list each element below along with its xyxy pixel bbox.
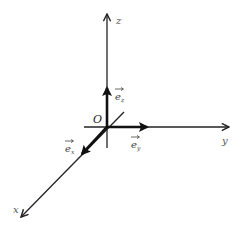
ez-subscript: z	[120, 96, 125, 103]
ex-subscript: x	[71, 148, 75, 155]
ey-label: e y	[131, 136, 141, 153]
ez-label: e z	[115, 88, 125, 104]
axes	[21, 14, 229, 217]
coordinate-system-diagram: z y x O e z e y e x	[0, 0, 244, 230]
x-axis-label: x	[13, 204, 19, 215]
ex-label: e x	[65, 140, 75, 156]
unit-vector-ex	[82, 127, 107, 154]
z-axis-label: z	[115, 15, 122, 26]
y-axis-label: y	[221, 135, 228, 146]
ey-subscript: y	[136, 144, 141, 152]
origin-label: O	[93, 113, 102, 126]
